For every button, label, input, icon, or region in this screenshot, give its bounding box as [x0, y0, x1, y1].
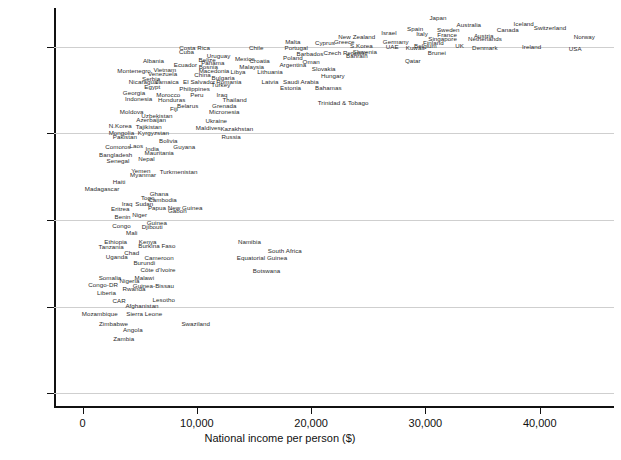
data-point-label: Myanmar	[130, 172, 156, 179]
x-tick	[197, 408, 198, 414]
data-point-label: Albania	[143, 57, 164, 64]
data-point-label: Kyrgyzstan	[138, 130, 169, 137]
x-axis-title: National income per person ($)	[204, 432, 355, 444]
data-point-label: Kazakhstan	[220, 126, 253, 133]
data-point-label: Maldives	[196, 125, 221, 132]
x-tick-label: 10,000	[180, 417, 214, 429]
data-point-label: Angola	[123, 327, 143, 334]
x-tick-label: 20,000	[294, 417, 328, 429]
x-tick	[311, 408, 312, 414]
y-tick	[47, 307, 54, 308]
data-point-label: Turkmenistan	[160, 168, 198, 175]
data-point-label: Bahamas	[315, 84, 342, 91]
data-point-label: Trinidad & Tobago	[318, 100, 369, 107]
data-point-label: Tanzania	[99, 244, 124, 251]
data-point-label: Mali	[126, 230, 138, 237]
data-point-label: Switzerland	[534, 25, 567, 32]
data-point-label: Qatar	[405, 57, 421, 64]
data-point-label: Benin	[115, 213, 131, 220]
y-axis-line	[54, 8, 56, 408]
data-point-label: Uganda	[106, 254, 128, 261]
data-point-label: Gabon	[168, 208, 187, 215]
data-point-label: Micronesia	[209, 109, 239, 116]
x-tick	[540, 408, 541, 414]
data-point-label: Senegal	[106, 158, 129, 165]
data-point-label: Ecuador	[174, 62, 197, 69]
data-point-label: Moldova	[120, 109, 144, 116]
y-tick	[47, 47, 54, 48]
data-point-label: Equatorial Guinea	[237, 255, 287, 262]
data-point-label: Netherlands	[468, 36, 502, 43]
data-point-label: Zambia	[113, 335, 134, 342]
data-point-label: Turkey	[211, 82, 230, 89]
data-point-label: CAR	[113, 298, 126, 305]
data-point-label: Mozambique	[82, 311, 118, 318]
data-point-label: Congo-DR	[88, 282, 118, 289]
x-tick-label: 40,000	[523, 417, 557, 429]
data-point-label: Canada	[497, 26, 519, 33]
data-point-label: Sierra Leone	[126, 311, 162, 318]
data-point-label: Indonesia	[125, 96, 152, 103]
x-tick	[83, 408, 84, 414]
data-point-label: USA	[569, 45, 582, 52]
data-point-label: Ireland	[522, 44, 541, 51]
gridline-y	[54, 220, 614, 221]
data-point-label: Swaziland	[181, 321, 210, 328]
data-point-label: Belarus	[177, 102, 198, 109]
data-point-label: UAE	[386, 44, 399, 51]
data-point-label: Lithuania	[257, 69, 283, 76]
data-point-label: Laos	[129, 143, 143, 150]
data-point-label: Norway	[574, 33, 595, 40]
data-point-label: Italy	[416, 31, 428, 38]
x-axis-line	[54, 406, 614, 408]
data-point-label: Botswana	[253, 268, 281, 275]
data-point-label: Afghanistan	[125, 302, 158, 309]
data-point-label: Chile	[249, 45, 263, 52]
data-point-label: Montenegro	[117, 68, 151, 75]
data-point-label: Burkina Faso	[138, 243, 175, 250]
data-point-label: Egypt	[144, 83, 160, 90]
data-point-label: Comoros	[105, 144, 130, 151]
data-point-label: Liberia	[97, 289, 116, 296]
gridline-y	[54, 393, 614, 394]
x-tick-label: 0	[80, 417, 86, 429]
data-point-label: Namibia	[238, 239, 261, 246]
data-point-label: UK	[455, 43, 464, 50]
data-point-label: Cuba	[179, 49, 194, 56]
data-point-label: Brunei	[428, 50, 446, 57]
plot-area: 4050607080 010,00020,00030,00040,000 Jap…	[54, 8, 614, 408]
data-point-label: Kuwait	[406, 45, 425, 52]
data-point-label: Slovakia	[312, 65, 336, 72]
data-point-label: Pakistan	[113, 134, 137, 141]
x-tick-label: 30,000	[409, 417, 443, 429]
data-point-label: Côte d'Ivoire	[140, 267, 175, 274]
data-point-label: Djibouti	[142, 224, 163, 231]
y-tick	[47, 393, 54, 394]
data-point-label: Japan	[429, 14, 446, 21]
data-point-label: Rwanda	[122, 286, 145, 293]
data-point-label: Russia	[222, 134, 241, 141]
data-point-label: Hungary	[321, 73, 345, 80]
data-point-label: Cyprus	[315, 39, 335, 46]
data-point-label: Peru	[190, 92, 203, 99]
data-point-label: Nepal	[138, 155, 154, 162]
data-point-label: Australia	[457, 22, 482, 29]
x-tick	[425, 408, 426, 414]
y-tick	[47, 220, 54, 221]
data-point-label: Israel	[381, 30, 396, 37]
data-point-label: Guyana	[173, 144, 195, 151]
data-point-label: Bahrain	[346, 53, 368, 60]
chart-canvas: 4050607080 010,00020,00030,00040,000 Jap…	[0, 0, 621, 460]
data-point-label: Eritrea	[111, 205, 130, 212]
data-point-label: Madagascar	[85, 186, 120, 193]
data-point-label: Denmark	[472, 45, 497, 52]
data-point-label: Estonia	[280, 84, 301, 91]
data-point-label: Argentina	[279, 62, 306, 69]
y-tick	[47, 133, 54, 134]
data-point-label: Latvia	[262, 78, 279, 85]
data-point-label: Niger	[132, 211, 147, 218]
